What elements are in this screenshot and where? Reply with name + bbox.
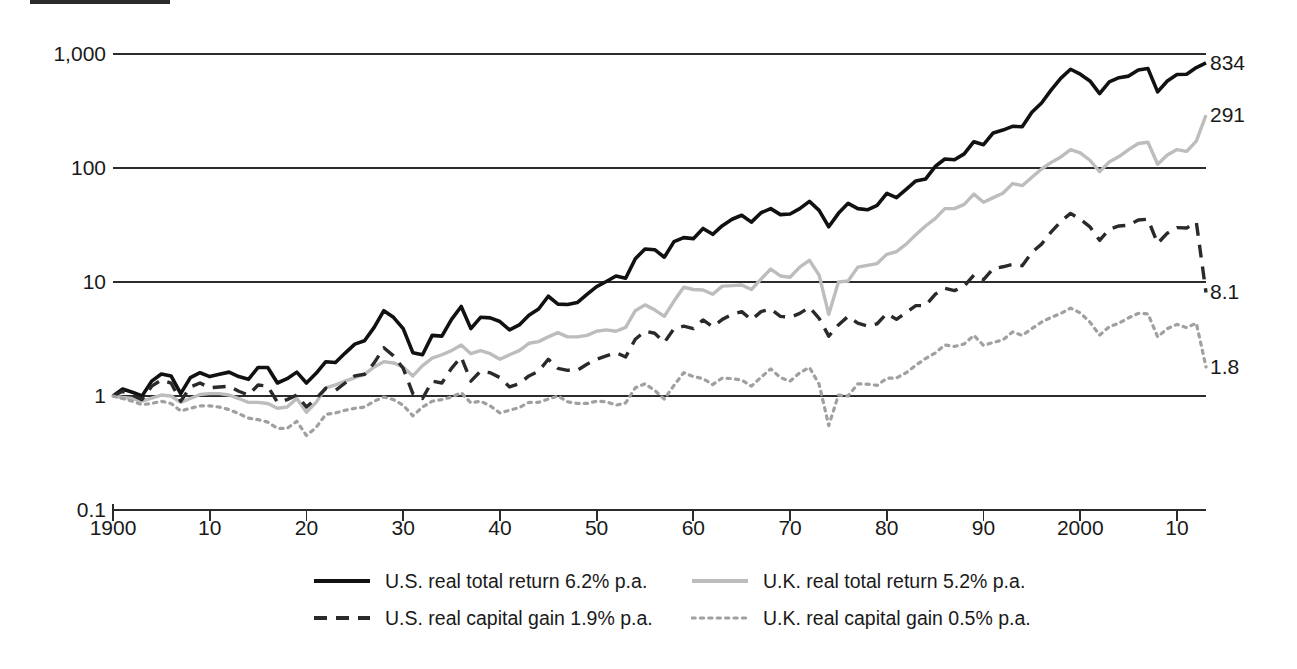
x-tick-label-70: 70 <box>778 516 801 539</box>
legend-item[interactable]: U.S. real capital gain 1.9% p.a. <box>313 603 653 633</box>
series-line-1 <box>113 115 1206 412</box>
y-tick-label-10: 10 <box>6 271 106 292</box>
x-tick-label-50: 50 <box>585 516 608 539</box>
x-tick-label-2000: 2000 <box>1057 516 1104 539</box>
legend-label: U.S. real capital gain 1.9% p.a. <box>385 608 653 628</box>
end-label-1.8: 1.8 <box>1210 356 1239 377</box>
legend-item[interactable]: U.S. real total return 6.2% p.a. <box>313 566 647 596</box>
chart-legend: U.S. real total return 6.2% p.a.U.K. rea… <box>313 566 1013 646</box>
x-tick-label-1900: 1900 <box>90 516 137 539</box>
x-tick-label-10: 10 <box>198 516 221 539</box>
end-label-291: 291 <box>1210 104 1245 125</box>
chart-figure: 0.11101001,000 1900102030405060708090200… <box>0 0 1297 669</box>
legend-line-swatch <box>313 611 371 625</box>
x-tick-label-30: 30 <box>391 516 414 539</box>
legend-line-swatch <box>313 574 371 588</box>
legend-item[interactable]: U.K. real capital gain 0.5% p.a. <box>691 603 1031 633</box>
series-end-value-labels: 8342918.11.8 <box>1210 0 1297 669</box>
legend-line-swatch <box>691 574 749 588</box>
y-axis-tick-labels: 0.11101001,000 <box>0 0 106 669</box>
x-tick-label-90: 90 <box>972 516 995 539</box>
end-label-8.1: 8.1 <box>1210 281 1239 302</box>
x-tick-label-10: 10 <box>1165 516 1188 539</box>
end-label-834: 834 <box>1210 52 1245 73</box>
legend-line-swatch <box>691 611 749 625</box>
series-line-3 <box>113 308 1206 435</box>
series-line-2 <box>113 213 1206 407</box>
legend-row: U.S. real total return 6.2% p.a.U.K. rea… <box>313 566 1013 596</box>
legend-row: U.S. real capital gain 1.9% p.a.U.K. rea… <box>313 603 1013 633</box>
legend-item[interactable]: U.K. real total return 5.2% p.a. <box>691 566 1025 596</box>
x-axis-tick-labels: 1900102030405060708090200010 <box>0 516 1297 546</box>
y-tick-label-1,000: 1,000 <box>6 43 106 64</box>
series-line-0 <box>113 63 1206 396</box>
legend-label: U.K. real capital gain 0.5% p.a. <box>763 608 1031 628</box>
x-tick-label-20: 20 <box>295 516 318 539</box>
x-tick-label-80: 80 <box>875 516 898 539</box>
y-tick-label-100: 100 <box>6 157 106 178</box>
legend-label: U.K. real total return 5.2% p.a. <box>763 571 1025 591</box>
y-tick-label-1: 1 <box>6 385 106 406</box>
x-tick-label-60: 60 <box>682 516 705 539</box>
legend-label: U.S. real total return 6.2% p.a. <box>385 571 647 591</box>
x-tick-label-40: 40 <box>488 516 511 539</box>
